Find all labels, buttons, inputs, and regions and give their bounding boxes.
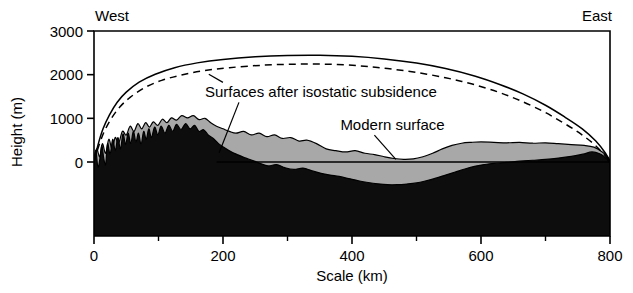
y-tick-label: 2000: [50, 66, 83, 83]
y-tick-label: 0: [75, 154, 83, 171]
annotation-leader-line: [209, 74, 223, 82]
x-tick-label: 600: [468, 247, 493, 264]
x-tick-label: 0: [90, 247, 98, 264]
cross-section-plot: West East Height (m) Scale (km) 01000200…: [0, 0, 633, 293]
direction-label-west: West: [95, 7, 130, 24]
cross-section-figure: West East Height (m) Scale (km) 01000200…: [0, 0, 633, 293]
direction-label-east: East: [582, 7, 613, 24]
x-tick-label: 400: [339, 247, 364, 264]
basement-layer: [94, 124, 610, 236]
annotation-isostatic-surfaces: Surfaces after isostatic subsidence: [205, 83, 437, 100]
annotation-modern-surface: Modern surface: [340, 116, 444, 133]
geology-layers: [94, 116, 610, 236]
y-tick-label: 1000: [50, 110, 83, 127]
x-tick-label: 200: [210, 247, 235, 264]
x-tick-label: 800: [597, 247, 622, 264]
x-axis-title: Scale (km): [316, 267, 388, 284]
y-axis-title: Height (m): [8, 97, 25, 167]
y-tick-label: 3000: [50, 23, 83, 40]
